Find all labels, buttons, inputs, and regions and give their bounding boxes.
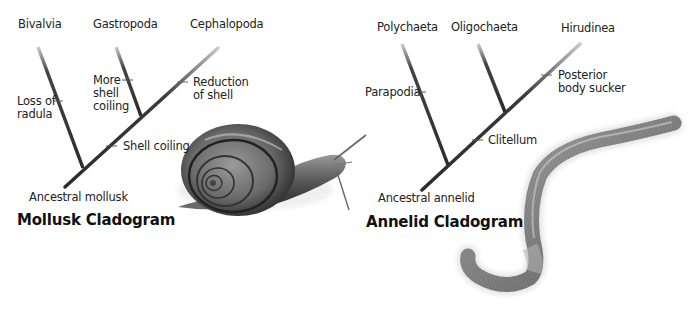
snail-illustration xyxy=(177,124,366,216)
cladogram-figure: Bivalvia Gastropoda Cephalopoda Loss of … xyxy=(0,0,695,309)
character-posterior-body-sucker: Posterior body sucker xyxy=(558,69,626,95)
character-parapodia: Parapodia xyxy=(365,86,420,99)
character-shell-coiling: Shell coiling xyxy=(123,140,190,153)
character-clitellum: Clitellum xyxy=(488,134,537,147)
annelid-cladogram-title: Annelid Cladogram xyxy=(366,213,523,231)
taxon-cephalopoda: Cephalopoda xyxy=(190,18,263,31)
character-reduction-of-shell: Reduction of shell xyxy=(193,76,249,102)
taxon-bivalvia: Bivalvia xyxy=(18,18,62,31)
character-loss-of-radula: Loss of radula xyxy=(17,95,56,121)
ancestor-annelid: Ancestral annelid xyxy=(378,192,475,205)
cladogram-lines xyxy=(0,0,695,309)
oligochaeta-branch xyxy=(478,44,505,112)
ancestor-mollusk: Ancestral mollusk xyxy=(29,191,128,204)
taxon-gastropoda: Gastropoda xyxy=(93,18,158,31)
taxon-hirudinea: Hirudinea xyxy=(561,22,615,35)
mollusk-cladogram-title: Mollusk Cladogram xyxy=(17,211,175,229)
polychaeta-branch xyxy=(402,44,448,165)
taxon-polychaeta: Polychaeta xyxy=(377,21,438,34)
taxon-oligochaeta: Oligochaeta xyxy=(451,21,518,34)
character-more-shell-coiling: More shell coiling xyxy=(93,74,129,113)
